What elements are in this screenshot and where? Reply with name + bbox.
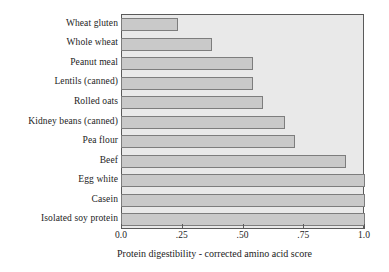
- bar: [121, 116, 285, 129]
- y-axis-label: Whole wheat: [0, 37, 118, 48]
- y-axis-label: Kidney beans (canned): [0, 116, 118, 127]
- x-axis-ticks: 0.0.25.50.751.0: [121, 229, 364, 245]
- bar-chart-figure: Wheat glutenWhole wheatPeanut mealLentil…: [0, 0, 389, 272]
- bar-row: [122, 113, 363, 133]
- bar-row: [122, 35, 363, 55]
- bar: [121, 174, 365, 187]
- bar-row: [122, 54, 363, 74]
- x-tick-mark: [121, 224, 122, 229]
- x-axis-title: Protein digestibility - corrected amino …: [0, 248, 389, 260]
- bar: [121, 77, 253, 90]
- y-axis-label: Casein: [0, 194, 118, 205]
- bar-row: [122, 15, 363, 35]
- y-axis-label: Lentils (canned): [0, 76, 118, 87]
- x-tick-label: 0.0: [115, 230, 127, 241]
- x-tick-label: .75: [297, 230, 309, 241]
- y-axis-label: Pea flour: [0, 135, 118, 146]
- y-axis-label: Beef: [0, 155, 118, 166]
- bar: [121, 38, 212, 51]
- bars-container: [122, 15, 363, 228]
- bar: [121, 57, 253, 70]
- y-axis-label: Isolated soy protein: [0, 213, 118, 224]
- x-tick-mark: [303, 224, 304, 229]
- plot-area: [121, 14, 364, 229]
- y-axis-label: Wheat gluten: [0, 18, 118, 29]
- x-tick-label: .25: [176, 230, 188, 241]
- bar-row: [122, 93, 363, 113]
- bar-row: [122, 152, 363, 172]
- bar-row: [122, 132, 363, 152]
- x-tick-mark: [182, 224, 183, 229]
- y-axis-category-labels: Wheat glutenWhole wheatPeanut mealLentil…: [0, 14, 118, 229]
- y-axis-label: Peanut meal: [0, 57, 118, 68]
- bar-row: [122, 171, 363, 191]
- bar: [121, 194, 365, 207]
- x-tick-mark: [364, 224, 365, 229]
- bar-row: [122, 74, 363, 94]
- bar: [121, 96, 263, 109]
- bar: [121, 135, 295, 148]
- x-tick-label: 1.0: [358, 230, 370, 241]
- y-axis-label: Egg white: [0, 174, 118, 185]
- x-tick-label: .50: [237, 230, 249, 241]
- bar: [121, 18, 178, 31]
- y-axis-label: Rolled oats: [0, 96, 118, 107]
- bar: [121, 155, 346, 168]
- bar-row: [122, 191, 363, 211]
- x-tick-mark: [243, 224, 244, 229]
